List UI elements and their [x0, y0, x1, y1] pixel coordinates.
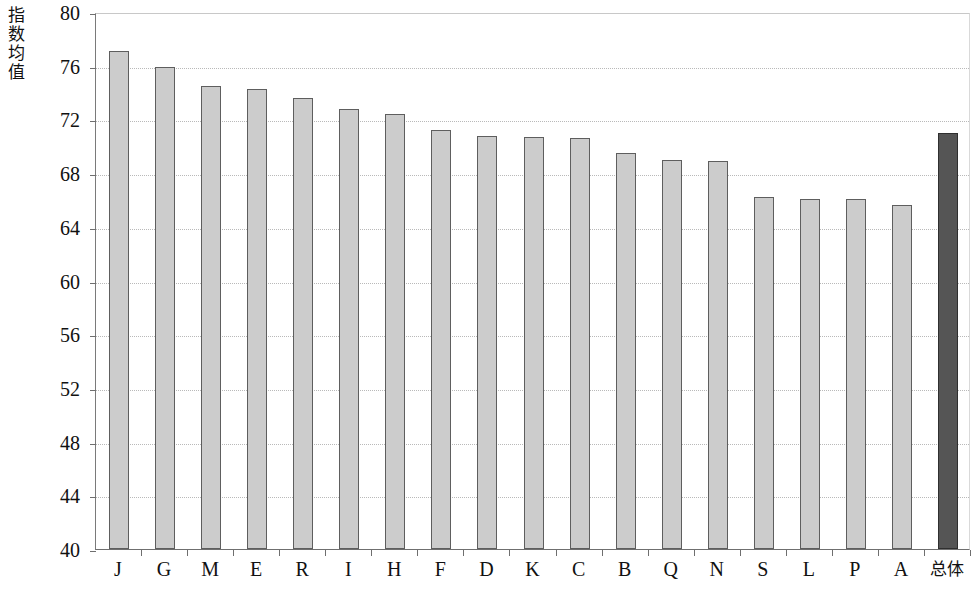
y-axis-tick-label: 64: [60, 218, 80, 238]
bar-B: [616, 153, 636, 549]
x-axis-tick-mark: [740, 550, 741, 556]
y-axis-tick-mark: [90, 336, 96, 337]
gridline: [96, 121, 969, 122]
bar-E: [247, 89, 267, 549]
x-axis-tick-label-R: R: [296, 556, 309, 582]
x-axis-tick-mark: [463, 550, 464, 556]
y-axis-tick-label: 40: [60, 540, 80, 560]
y-axis-tick-label: 72: [60, 110, 80, 130]
y-axis-tick-label: 68: [60, 164, 80, 184]
y-axis-tick-mark: [90, 14, 96, 15]
x-axis-tick-label-I: I: [345, 556, 352, 582]
x-axis-tick-mark: [233, 550, 234, 556]
bar-S: [754, 197, 774, 549]
bar-A: [892, 205, 912, 549]
x-axis-tick-label-L: L: [803, 556, 815, 582]
x-axis-tick-label-M: M: [201, 556, 219, 582]
bar-K: [524, 137, 544, 549]
x-axis-tick-mark: [694, 550, 695, 556]
x-axis-tick-label-D: D: [479, 556, 493, 582]
y-axis-tick-label: 76: [60, 57, 80, 77]
y-axis-tick-label: 48: [60, 433, 80, 453]
x-axis-tick-label-K: K: [525, 556, 539, 582]
x-axis-tick-mark: [832, 550, 833, 556]
y-axis-title: 指数均值: [2, 6, 30, 82]
x-axis-tick-label-F: F: [435, 556, 446, 582]
bar-R: [293, 98, 313, 549]
x-axis-tick-mark: [325, 550, 326, 556]
x-axis-tick-label-G: G: [157, 556, 171, 582]
x-axis-tick-label-总体: 总体: [930, 556, 964, 582]
bar-F: [431, 130, 451, 549]
x-axis-tick-label-E: E: [250, 556, 262, 582]
y-axis-tick-label: 60: [60, 272, 80, 292]
x-axis-tick-label-A: A: [894, 556, 908, 582]
y-axis-title-char: 值: [2, 63, 30, 82]
bar-D: [477, 136, 497, 549]
bar-H: [385, 114, 405, 549]
x-axis-tick-label-Q: Q: [663, 556, 677, 582]
x-axis-tick-label-S: S: [757, 556, 768, 582]
y-axis-title-char: 指: [2, 6, 30, 25]
bar-N: [708, 161, 728, 549]
plot-area: [95, 13, 970, 550]
x-axis-tick-mark: [602, 550, 603, 556]
y-axis-title-char: 均: [2, 44, 30, 63]
x-axis-tick-mark: [648, 550, 649, 556]
x-axis-tick-mark: [141, 550, 142, 556]
x-axis-tick-mark: [878, 550, 879, 556]
y-axis-tick-mark: [90, 390, 96, 391]
bar-chart-figure: 指数均值 8076726864605652484440 JGMERIHFDKCB…: [0, 0, 980, 590]
y-axis-tick-mark: [90, 283, 96, 284]
x-axis-tick-labels: JGMERIHFDKCBQNSLPA总体: [95, 556, 970, 590]
x-axis-tick-label-H: H: [387, 556, 401, 582]
x-axis-tick-mark: [924, 550, 925, 556]
y-axis-tick-mark: [90, 121, 96, 122]
x-axis-tick-label-J: J: [114, 556, 122, 582]
gridline: [96, 68, 969, 69]
y-axis-tick-labels: 8076726864605652484440: [34, 0, 86, 590]
x-axis-tick-mark: [417, 550, 418, 556]
y-axis-tick-mark: [90, 175, 96, 176]
bar-Q: [662, 160, 682, 549]
x-axis-tick-mark: [556, 550, 557, 556]
y-axis-tick-mark: [90, 229, 96, 230]
x-axis-tick-label-B: B: [618, 556, 631, 582]
y-axis-tick-mark: [90, 497, 96, 498]
x-axis-tick-mark: [509, 550, 510, 556]
bar-总体: [938, 133, 958, 549]
x-axis-tick-label-P: P: [849, 556, 860, 582]
y-axis-tick-label: 52: [60, 379, 80, 399]
x-axis-tick-mark: [371, 550, 372, 556]
bar-J: [109, 51, 129, 549]
bar-I: [339, 109, 359, 549]
y-axis-tick-mark: [90, 444, 96, 445]
x-axis-tick-mark: [970, 550, 971, 556]
y-axis-tick-mark: [90, 68, 96, 69]
bar-L: [800, 199, 820, 549]
x-axis-tick-mark: [279, 550, 280, 556]
y-axis-tick-label: 44: [60, 486, 80, 506]
y-axis-title-char: 数: [2, 25, 30, 44]
y-axis-tick-mark: [90, 551, 96, 552]
x-axis-tick-mark: [786, 550, 787, 556]
y-axis-tick-label: 80: [60, 3, 80, 23]
bar-M: [201, 86, 221, 549]
x-axis-tick-label-C: C: [572, 556, 585, 582]
x-axis-tick-label-N: N: [709, 556, 723, 582]
y-axis-tick-label: 56: [60, 325, 80, 345]
bar-G: [155, 67, 175, 549]
bar-C: [570, 138, 590, 549]
x-axis-tick-mark: [187, 550, 188, 556]
bar-P: [846, 199, 866, 549]
